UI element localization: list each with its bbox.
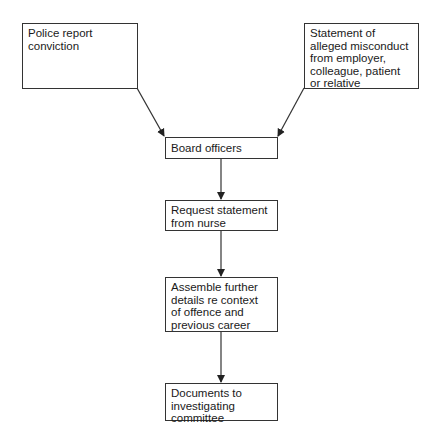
node-text: from employer, — [310, 52, 413, 65]
node-text: conviction — [28, 40, 132, 53]
node-text: from nurse — [171, 217, 272, 230]
node-request-statement: Request statement from nurse — [165, 200, 278, 231]
node-text: Police report — [28, 27, 132, 40]
node-board-officers: Board officers — [165, 137, 278, 159]
node-assemble-details: Assemble further details re context of o… — [165, 277, 278, 332]
node-statement-misconduct: Statement of alleged misconduct from emp… — [304, 23, 419, 89]
node-text: previous career — [171, 319, 272, 332]
node-text: Board officers — [171, 142, 272, 155]
node-text: investigating — [171, 400, 272, 413]
node-text: Assemble further — [171, 281, 272, 294]
node-police-report: Police report conviction — [22, 23, 138, 89]
node-text: Documents to — [171, 387, 272, 400]
node-text: committee — [171, 412, 272, 425]
arrow-statement-to-board — [278, 88, 304, 136]
node-text: of offence and — [171, 306, 272, 319]
node-text: alleged misconduct — [310, 40, 413, 53]
node-text: Statement of — [310, 27, 413, 40]
node-text: colleague, patient — [310, 65, 413, 78]
node-text: details re context — [171, 294, 272, 307]
arrow-police-to-board — [137, 88, 164, 136]
node-documents-committee: Documents to investigating committee — [165, 383, 278, 421]
node-text: Request statement — [171, 204, 272, 217]
node-text: or relative — [310, 77, 413, 90]
